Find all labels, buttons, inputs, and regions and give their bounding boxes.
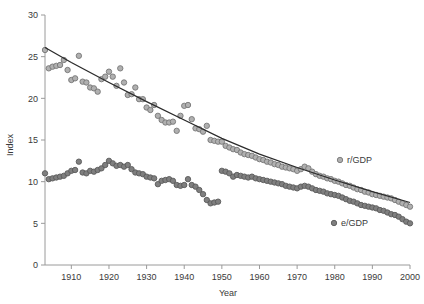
data-point xyxy=(189,116,194,121)
y-tick-label: 0 xyxy=(33,260,38,270)
legend-marker-icon xyxy=(337,157,342,162)
x-axis-ticks: 1910192019301940195019601970198019902000 xyxy=(61,265,420,282)
trend-line-path xyxy=(45,48,410,203)
x-tick-label: 1990 xyxy=(362,272,382,282)
legend-label: r/GDP xyxy=(347,155,372,165)
data-point xyxy=(72,76,77,81)
data-point xyxy=(110,74,115,79)
data-point xyxy=(204,123,209,128)
data-point xyxy=(185,102,190,107)
x-tick-label: 1920 xyxy=(99,272,119,282)
series-r-gdp-points xyxy=(42,47,412,209)
data-point xyxy=(133,85,138,90)
data-point xyxy=(118,66,123,71)
legend-marker-icon xyxy=(331,220,336,225)
data-point xyxy=(84,80,89,85)
y-axis-title: Index xyxy=(5,133,15,156)
x-tick-label: 1980 xyxy=(325,272,345,282)
data-point xyxy=(407,221,412,226)
data-point xyxy=(174,128,179,133)
data-point xyxy=(42,171,47,176)
y-tick-label: 30 xyxy=(28,10,38,20)
data-point xyxy=(185,176,190,181)
y-tick-label: 25 xyxy=(28,52,38,62)
data-point xyxy=(95,89,100,94)
data-point xyxy=(76,53,81,58)
data-point xyxy=(76,159,81,164)
data-point xyxy=(57,62,62,67)
y-tick-label: 5 xyxy=(33,219,38,229)
x-tick-label: 1960 xyxy=(249,272,269,282)
data-point xyxy=(215,199,220,204)
x-tick-label: 1950 xyxy=(212,272,232,282)
chart-container: 051015202530 191019201930194019501960197… xyxy=(0,0,424,304)
y-tick-label: 20 xyxy=(28,94,38,104)
data-point xyxy=(148,107,153,112)
data-point xyxy=(121,80,126,85)
x-tick-label: 1930 xyxy=(137,272,157,282)
data-point xyxy=(200,191,205,196)
y-tick-label: 10 xyxy=(28,177,38,187)
x-axis-title: Year xyxy=(219,288,237,298)
data-point xyxy=(407,204,412,209)
x-tick-label: 1910 xyxy=(61,272,81,282)
data-point xyxy=(72,167,77,172)
data-point xyxy=(170,119,175,124)
trendline xyxy=(45,48,410,203)
legend-label: e/GDP xyxy=(341,218,368,228)
data-point xyxy=(65,67,70,72)
scatter-plot: 051015202530 191019201930194019501960197… xyxy=(0,0,424,304)
data-point xyxy=(106,69,111,74)
data-point xyxy=(151,176,156,181)
x-tick-label: 2000 xyxy=(400,272,420,282)
data-point xyxy=(182,182,187,187)
x-tick-label: 1970 xyxy=(287,272,307,282)
data-point xyxy=(103,74,108,79)
x-tick-label: 1940 xyxy=(174,272,194,282)
y-tick-label: 15 xyxy=(28,135,38,145)
